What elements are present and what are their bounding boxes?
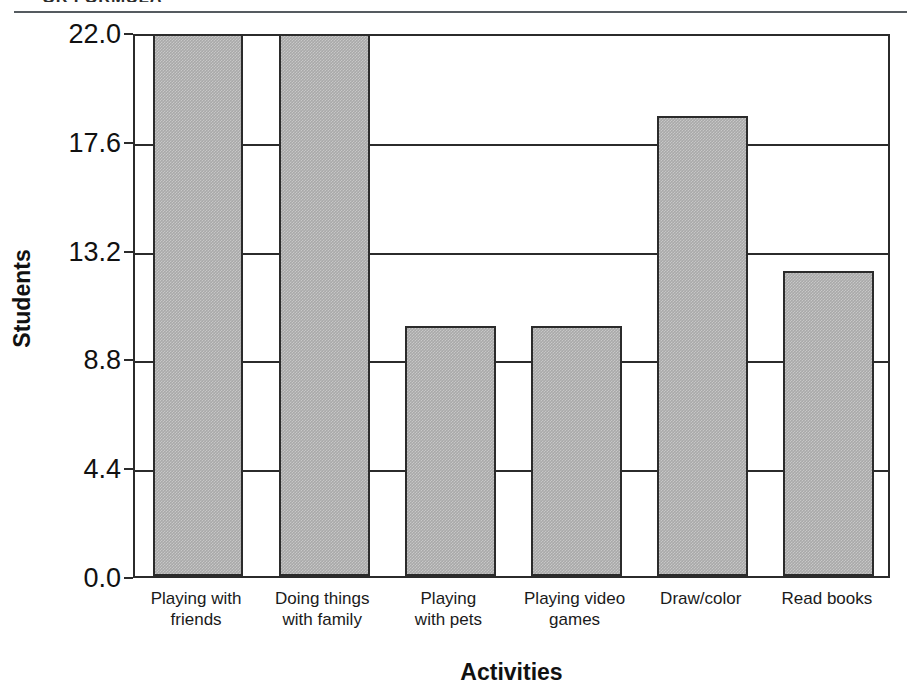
y-tick-label: 8.8 bbox=[13, 345, 121, 376]
x-category-label: Playing videogames bbox=[512, 588, 638, 630]
y-tick-mark bbox=[124, 142, 133, 144]
x-category-label: Doing thingswith family bbox=[259, 588, 385, 630]
x-category-label-line: Doing things bbox=[259, 588, 385, 609]
bar[interactable] bbox=[153, 34, 244, 576]
y-tick-label: 17.6 bbox=[13, 127, 121, 158]
y-tick-mark bbox=[124, 359, 133, 361]
x-category-label-line: with family bbox=[259, 609, 385, 630]
y-tick-label: 13.2 bbox=[13, 236, 121, 267]
x-category-label-line: friends bbox=[133, 609, 259, 630]
bar[interactable] bbox=[783, 271, 874, 576]
x-axis-title: Activities bbox=[133, 659, 890, 686]
bar[interactable] bbox=[657, 116, 748, 576]
x-category-label-line: games bbox=[512, 609, 638, 630]
bar[interactable] bbox=[531, 326, 622, 576]
x-category-label-line: Playing video bbox=[512, 588, 638, 609]
x-category-label-line: Playing bbox=[385, 588, 511, 609]
bar[interactable] bbox=[405, 326, 496, 576]
x-category-label-line: Read books bbox=[764, 588, 890, 609]
gridline bbox=[135, 144, 888, 146]
gridline bbox=[135, 361, 888, 363]
x-category-label: Playingwith pets bbox=[385, 588, 511, 630]
bar[interactable] bbox=[279, 34, 370, 576]
header-divider bbox=[14, 11, 907, 13]
y-tick-label: 4.4 bbox=[13, 454, 121, 485]
x-category-label-line: Draw/color bbox=[638, 588, 764, 609]
x-category-label-line: Playing with bbox=[133, 588, 259, 609]
y-tick-mark bbox=[124, 251, 133, 253]
chart-figure: OR FORMULA Students Activities 0.04.48.8… bbox=[0, 0, 919, 700]
clipped-page-title: OR FORMULA bbox=[42, 0, 162, 2]
gridline bbox=[135, 253, 888, 255]
x-category-label-line: with pets bbox=[385, 609, 511, 630]
y-tick-mark bbox=[124, 33, 133, 35]
gridline bbox=[135, 470, 888, 472]
y-tick-mark bbox=[124, 577, 133, 579]
x-category-label: Playing withfriends bbox=[133, 588, 259, 630]
x-category-label: Draw/color bbox=[638, 588, 764, 609]
y-tick-label: 0.0 bbox=[13, 563, 121, 594]
x-category-label: Read books bbox=[764, 588, 890, 609]
plot-area bbox=[133, 34, 890, 578]
y-tick-label: 22.0 bbox=[13, 19, 121, 50]
y-tick-mark bbox=[124, 468, 133, 470]
